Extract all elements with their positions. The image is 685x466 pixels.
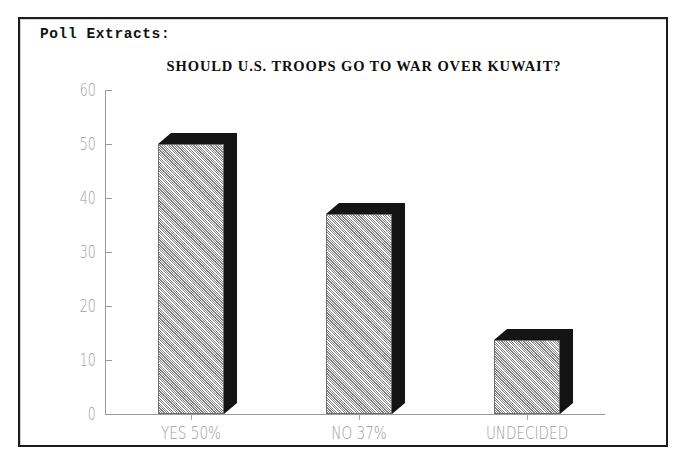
y-tick-40: 40: [105, 198, 112, 199]
y-tick-60: 60: [105, 90, 112, 91]
y-tick-mark: [105, 198, 112, 199]
bar-front-face: [494, 340, 560, 414]
bar-front-face: [326, 214, 392, 414]
bar-front-face: [158, 144, 224, 414]
x-axis-line: [105, 414, 605, 415]
y-tick-mark: [105, 306, 112, 307]
y-tick-mark: [105, 360, 112, 361]
x-axis-label-no: NO 37%: [311, 423, 407, 443]
y-tick-label: 50: [80, 134, 96, 154]
bar-yes[interactable]: [158, 133, 237, 414]
y-tick-mark: [105, 144, 112, 145]
y-tick-mark: [105, 414, 112, 415]
y-tick-label: 0: [88, 404, 96, 424]
y-tick-50: 50: [105, 144, 112, 145]
x-tick-yes: [191, 414, 192, 420]
y-tick-10: 10: [105, 360, 112, 361]
y-tick-label: 60: [80, 80, 96, 100]
bar-side-face: [392, 203, 405, 414]
y-tick-label: 20: [80, 296, 96, 316]
bar-undecided[interactable]: [494, 329, 573, 414]
y-tick-20: 20: [105, 306, 112, 307]
bar-side-face: [224, 133, 237, 414]
y-tick-label: 40: [80, 188, 96, 208]
y-tick-0: 0: [105, 414, 112, 415]
x-axis-label-yes: YES 50%: [143, 423, 239, 443]
x-tick-no: [359, 414, 360, 420]
x-tick-undecided: [527, 414, 528, 420]
bar-side-face: [560, 329, 573, 414]
y-tick-mark: [105, 252, 112, 253]
y-tick-30: 30: [105, 252, 112, 253]
y-tick-label: 30: [80, 242, 96, 262]
bar-no[interactable]: [326, 203, 405, 414]
x-axis-label-undecided: UNDECIDED: [479, 423, 575, 443]
y-tick-label: 10: [80, 350, 96, 370]
y-tick-mark: [105, 90, 112, 91]
chart-plot-area: 60 50 40 30 20 10 0: [20, 19, 666, 445]
poll-extracts-frame: Poll Extracts: SHOULD U.S. TROOPS GO TO …: [18, 17, 668, 447]
